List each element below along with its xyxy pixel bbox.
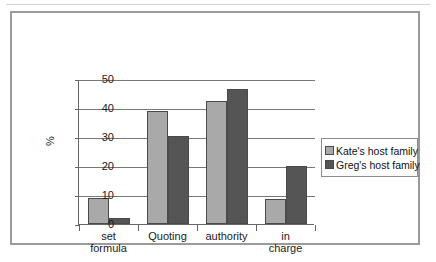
legend-label: Greg's host family bbox=[336, 159, 420, 171]
bar bbox=[286, 166, 307, 224]
bar bbox=[147, 111, 168, 224]
gridline bbox=[79, 167, 315, 168]
y-tick-label: 10 bbox=[74, 190, 114, 201]
bar bbox=[227, 89, 248, 224]
legend-swatch-icon bbox=[325, 146, 334, 155]
legend-label: Kate's host family bbox=[336, 145, 418, 157]
gridline bbox=[79, 196, 315, 197]
bar bbox=[168, 136, 189, 224]
x-tick-label: set formula bbox=[79, 230, 138, 254]
x-tick-mark bbox=[315, 225, 316, 231]
x-tick-label: authority bbox=[197, 230, 256, 242]
top-divider-rule bbox=[6, 4, 430, 5]
legend-item: Kate's host family bbox=[325, 144, 414, 157]
y-tick-label: 0 bbox=[74, 219, 114, 230]
y-tick-label: 30 bbox=[74, 132, 114, 143]
gridline bbox=[79, 138, 315, 139]
gridline bbox=[79, 109, 315, 110]
bar bbox=[206, 101, 227, 224]
bar bbox=[265, 199, 286, 224]
y-tick-label: 40 bbox=[74, 103, 114, 114]
chart-figure-frame: % set formulaQuotingauthorityin charge K… bbox=[10, 11, 420, 245]
legend-swatch-icon bbox=[325, 160, 334, 169]
legend-item: Greg's host family bbox=[325, 158, 414, 171]
y-tick-label: 50 bbox=[74, 74, 114, 85]
y-tick-label: 20 bbox=[74, 161, 114, 172]
chart-legend: Kate's host family Greg's host family bbox=[321, 138, 418, 177]
x-tick-mark bbox=[138, 225, 139, 231]
x-tick-mark bbox=[256, 225, 257, 231]
y-axis-title: % bbox=[44, 136, 56, 146]
x-tick-label: Quoting bbox=[138, 230, 197, 242]
x-tick-label: in charge bbox=[256, 230, 315, 254]
gridline bbox=[79, 80, 315, 81]
x-tick-mark bbox=[197, 225, 198, 231]
